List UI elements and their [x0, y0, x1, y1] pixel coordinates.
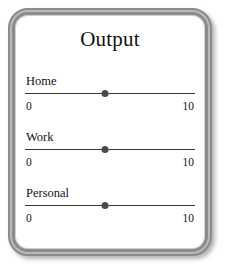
slider-max-label: 10 — [183, 211, 195, 225]
slider-track[interactable] — [25, 93, 195, 94]
slider-work[interactable] — [25, 146, 195, 155]
slider-personal[interactable] — [25, 202, 195, 211]
slider-thumb[interactable] — [101, 90, 108, 97]
slider-label-work: Work — [25, 131, 195, 144]
slider-min-label: 0 — [26, 155, 32, 169]
slider-scale: 010 — [25, 155, 195, 169]
output-panel-frame: Output Home010Work010Personal010 — [8, 8, 212, 256]
slider-max-label: 10 — [183, 155, 195, 169]
slider-thumb[interactable] — [101, 146, 108, 153]
slider-min-label: 0 — [26, 211, 32, 225]
slider-thumb[interactable] — [101, 202, 108, 209]
slider-list: Home010Work010Personal010 — [25, 75, 195, 225]
slider-home[interactable] — [25, 90, 195, 99]
slider-scale: 010 — [25, 99, 195, 113]
slider-group: Home010 — [25, 75, 195, 113]
slider-group: Work010 — [25, 131, 195, 169]
slider-track[interactable] — [25, 149, 195, 150]
slider-label-home: Home — [25, 75, 195, 88]
slider-max-label: 10 — [183, 99, 195, 113]
page-title: Output — [25, 29, 195, 50]
slider-track[interactable] — [25, 205, 195, 206]
slider-min-label: 0 — [26, 99, 32, 113]
output-panel-body: Output Home010Work010Personal010 — [15, 15, 205, 249]
slider-group: Personal010 — [25, 187, 195, 225]
slider-scale: 010 — [25, 211, 195, 225]
slider-label-personal: Personal — [25, 187, 195, 200]
